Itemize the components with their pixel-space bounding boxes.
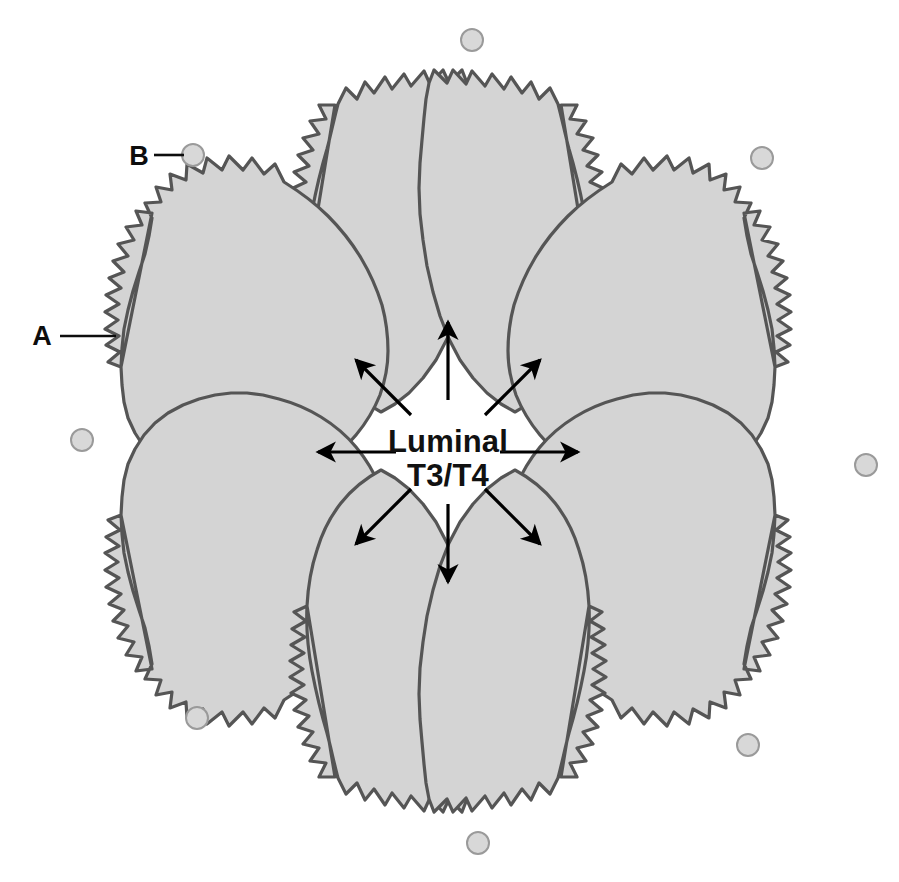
capillary <box>467 832 489 854</box>
capillary <box>461 29 483 51</box>
capillary <box>186 707 208 729</box>
capillary <box>737 734 759 756</box>
capillary <box>751 147 773 169</box>
lumen-label-line2: T3/T4 <box>407 458 490 493</box>
marker-a-label: A <box>32 321 52 351</box>
capillary-labeled-b <box>182 144 204 166</box>
marker-b-label: B <box>129 141 149 171</box>
capillary <box>71 429 93 451</box>
lumen-label-line1: Luminal <box>388 424 508 459</box>
capillary <box>855 454 877 476</box>
thyroid-follicle-diagram: Luminal T3/T4 A B <box>0 0 899 882</box>
